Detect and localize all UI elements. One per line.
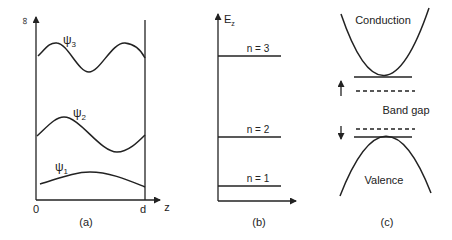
- valence-band-curve: [340, 136, 431, 196]
- panel-a: ∞ ψ3 ψ2 ψ1 0 d z (a): [20, 17, 170, 228]
- caption-c: (c): [381, 216, 394, 228]
- n3-label: n = 3: [247, 43, 270, 54]
- origin-label: 0: [33, 203, 39, 215]
- psi1-label: ψ1: [55, 160, 69, 176]
- quantum-well-diagram: ∞ ψ3 ψ2 ψ1 0 d z (a) Ez n = 3 n = 2 n = …: [0, 0, 452, 240]
- valence-label: Valence: [365, 174, 404, 186]
- caption-a: (a): [79, 216, 92, 228]
- n2-label: n = 2: [247, 124, 270, 135]
- psi2-curve: [37, 117, 145, 152]
- psi1-curve: [40, 172, 145, 187]
- infinity-label: ∞: [20, 17, 31, 24]
- ez-label: Ez: [224, 13, 235, 27]
- psi3-label: ψ3: [63, 33, 77, 49]
- panel-b: Ez n = 3 n = 2 n = 1 (b): [218, 13, 296, 228]
- band-gap-label: Band gap: [382, 104, 429, 116]
- z-label: z: [164, 201, 170, 213]
- panel-c: Conduction Band gap Valence (c): [340, 8, 431, 228]
- caption-b: (b): [252, 216, 265, 228]
- psi3-curve: [38, 43, 145, 72]
- conduction-label: Conduction: [355, 14, 411, 26]
- d-label: d: [140, 203, 146, 215]
- n1-label: n = 1: [247, 173, 270, 184]
- psi2-label: ψ2: [73, 106, 87, 122]
